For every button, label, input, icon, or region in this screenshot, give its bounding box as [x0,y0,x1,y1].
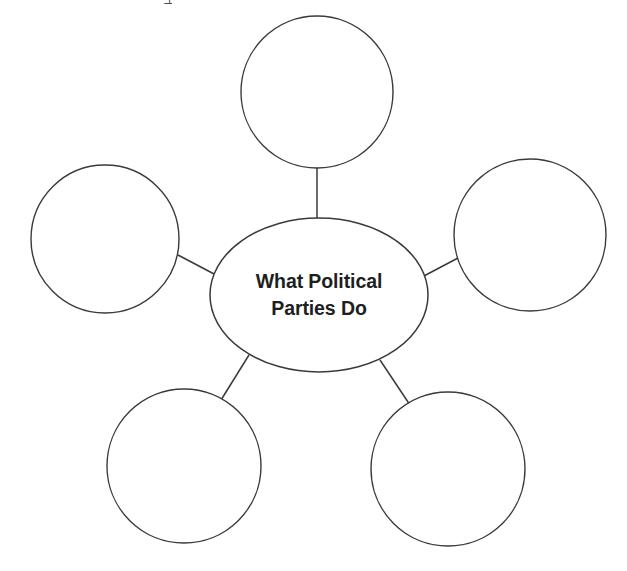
satellite-bubble-top-right[interactable] [454,159,606,311]
connector-center-to-bottom-right [380,360,410,405]
satellite-bubble-top[interactable] [241,16,393,168]
center-node-group: What Political Parties Do [210,218,428,372]
center-topic-label-line-2: Parties Do [271,297,367,319]
cropped-glyph-fragment: ⊥ [163,0,172,4]
satellite-bubble-bottom-left[interactable] [107,389,261,543]
connector-center-to-top-right [422,258,458,277]
center-topic-label-line-1: What Political [256,270,382,292]
satellite-bubble-bottom-right[interactable] [371,392,525,546]
connector-center-to-top-left [178,255,216,275]
connector-center-to-bottom-left [221,355,249,400]
diagram-canvas: What Political Parties Do [0,0,627,571]
concept-web-diagram: What Political Parties Do ⊥ [0,0,627,571]
center-topic-ellipse[interactable] [210,218,428,372]
satellite-bubble-top-left[interactable] [31,165,179,313]
